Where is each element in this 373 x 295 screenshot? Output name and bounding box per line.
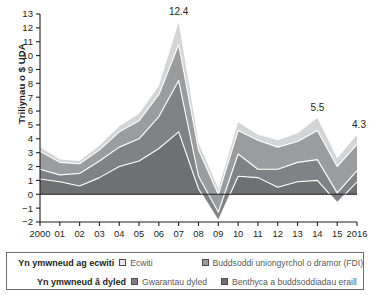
stacked-area-chart: Triliynau o $ UDA −2−1012345678910111213… — [0, 0, 373, 295]
svg-text:06: 06 — [154, 228, 164, 239]
svg-text:10: 10 — [233, 228, 243, 239]
legend-swatch-fdi — [202, 259, 209, 266]
legend-item-debt-securities[interactable]: Gwarantau dyled — [126, 277, 198, 287]
svg-text:6: 6 — [28, 105, 33, 116]
svg-text:02: 02 — [74, 228, 84, 239]
legend-swatch-debt-securities — [131, 278, 138, 285]
chart-canvas: −2−1012345678910111213200001020304050607… — [0, 0, 373, 248]
svg-text:0: 0 — [28, 189, 33, 200]
legend-group-equity-label: Yn ymwneud ag ecwiti — [14, 258, 114, 268]
svg-text:12.4: 12.4 — [169, 6, 189, 17]
legend-label-debt-securities: Gwarantau dyled — [142, 277, 207, 287]
svg-text:2016: 2016 — [347, 228, 368, 239]
svg-text:13: 13 — [292, 228, 302, 239]
legend-item-ecwiti[interactable]: Ecwiti — [114, 258, 178, 268]
svg-text:15: 15 — [332, 228, 342, 239]
chart-legend: Yn ymwneud ag ecwiti Ecwiti Buddsoddi un… — [6, 252, 364, 290]
svg-text:07: 07 — [173, 228, 183, 239]
svg-text:−2: −2 — [22, 216, 33, 227]
svg-text:4: 4 — [28, 133, 34, 144]
svg-text:11: 11 — [253, 228, 263, 239]
svg-text:9: 9 — [28, 64, 33, 75]
y-axis-title: Triliynau o $ UDA — [16, 19, 27, 149]
svg-text:5.5: 5.5 — [310, 102, 324, 113]
svg-text:12: 12 — [273, 228, 283, 239]
svg-text:2000: 2000 — [30, 228, 51, 239]
svg-text:04: 04 — [114, 228, 124, 239]
svg-text:7: 7 — [28, 92, 33, 103]
svg-text:14: 14 — [312, 228, 322, 239]
svg-text:1: 1 — [28, 175, 33, 186]
svg-text:03: 03 — [94, 228, 104, 239]
svg-text:05: 05 — [134, 228, 144, 239]
legend-item-other-lending[interactable]: Benthyca a buddsoddiadau eraill — [216, 277, 357, 287]
svg-text:3: 3 — [28, 147, 33, 158]
svg-text:4.3: 4.3 — [352, 119, 366, 130]
legend-label-other-lending: Benthyca a buddsoddiadau eraill — [232, 277, 357, 287]
svg-text:5: 5 — [28, 119, 33, 130]
plot-area: Triliynau o $ UDA −2−1012345678910111213… — [0, 0, 373, 248]
legend-item-fdi[interactable]: Buddsoddi uniongyrchol o dramor (FDI) — [197, 258, 363, 268]
legend-swatch-other-lending — [221, 278, 228, 285]
svg-text:2: 2 — [28, 161, 33, 172]
legend-label-fdi: Buddsoddi uniongyrchol o dramor (FDI) — [213, 258, 363, 268]
svg-text:09: 09 — [213, 228, 223, 239]
legend-row-equity: Yn ymwneud ag ecwiti Ecwiti Buddsoddi un… — [7, 253, 363, 272]
legend-swatch-ecwiti — [119, 259, 126, 266]
svg-text:08: 08 — [193, 228, 203, 239]
legend-group-debt-label: Yn ymwneud â dyled — [14, 277, 126, 287]
svg-text:01: 01 — [55, 228, 65, 239]
legend-label-ecwiti: Ecwiti — [130, 258, 152, 268]
svg-text:−1: −1 — [22, 203, 33, 214]
legend-row-debt: Yn ymwneud â dyled Gwarantau dyled Benth… — [7, 272, 363, 291]
svg-text:8: 8 — [28, 78, 33, 89]
